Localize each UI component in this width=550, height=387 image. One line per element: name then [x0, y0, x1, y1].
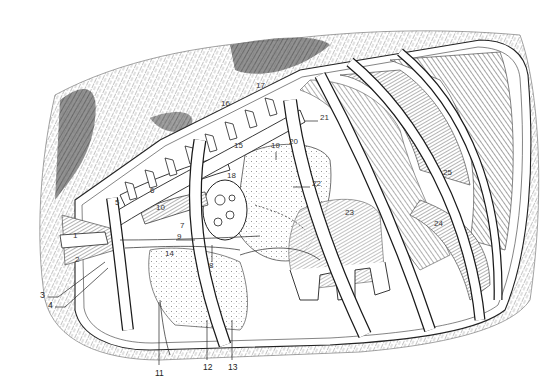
label-3: 3	[40, 291, 45, 300]
label-6: 6	[150, 187, 154, 195]
label-24: 24	[434, 220, 443, 228]
label-20: 20	[289, 138, 298, 146]
label-9: 9	[177, 233, 181, 241]
label-5: 5	[115, 199, 119, 207]
label-11: 11	[155, 369, 164, 378]
label-22: 22	[312, 180, 321, 188]
label-7: 7	[180, 222, 184, 230]
label-17: 17	[256, 82, 265, 90]
anatomical-illustration	[0, 0, 550, 387]
label-21: 21	[320, 114, 329, 122]
label-13: 13	[228, 363, 237, 372]
label-10: 10	[156, 204, 165, 212]
label-25: 25	[443, 169, 452, 177]
label-19: 19	[271, 142, 280, 150]
label-8: 8	[209, 262, 213, 270]
label-12: 12	[203, 363, 212, 372]
label-4: 4	[48, 301, 53, 310]
label-2: 2	[75, 256, 79, 264]
label-18: 18	[227, 172, 236, 180]
label-1: 1	[73, 232, 77, 240]
label-16: 16	[221, 100, 230, 108]
label-23: 23	[345, 209, 354, 217]
label-15: 15	[234, 142, 243, 150]
label-14: 14	[165, 250, 174, 258]
